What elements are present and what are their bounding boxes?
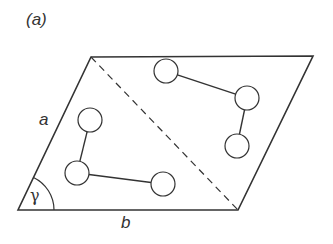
molecule-lower-left	[65, 108, 175, 196]
atom-circle	[225, 134, 249, 158]
atom-circle	[151, 172, 175, 196]
atom-circle	[78, 108, 102, 132]
atom-circle	[154, 59, 178, 83]
bond-line	[239, 110, 244, 135]
side-b-label: b	[121, 213, 130, 233]
atom-circle	[235, 86, 259, 110]
unit-cell-diagram	[0, 0, 333, 244]
side-a-label: a	[39, 110, 48, 130]
atom-circle	[65, 161, 89, 185]
gamma-angle-label: γ	[30, 186, 40, 205]
molecules	[65, 59, 259, 196]
molecule-upper-right	[154, 59, 259, 158]
bond-line	[89, 175, 151, 183]
bond-line	[80, 132, 87, 162]
panel-label: (a)	[26, 10, 47, 30]
bond-line	[177, 75, 235, 94]
